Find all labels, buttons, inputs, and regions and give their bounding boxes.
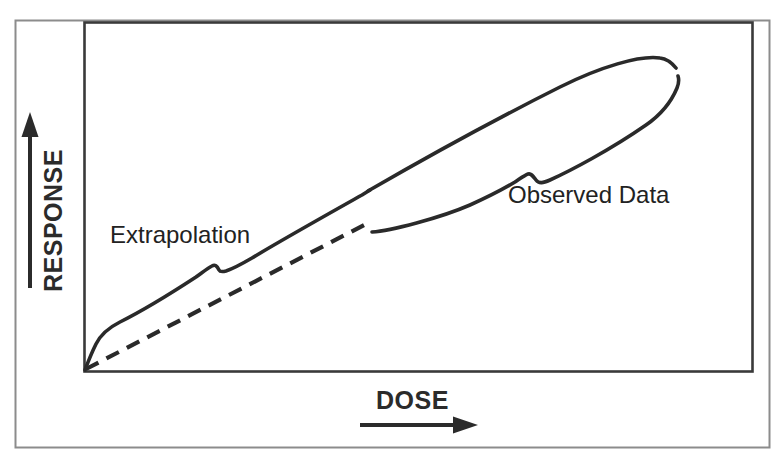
figure-canvas: RESPONSE Extrapolation Observed Data DOS… — [0, 0, 784, 459]
dose-response-figure: RESPONSE Extrapolation Observed Data DOS… — [0, 0, 784, 459]
y-axis-label: RESPONSE — [39, 149, 67, 292]
observed-data-upper-curve — [368, 58, 676, 191]
dose-axis-arrow-icon — [360, 417, 478, 434]
extrapolation-curve — [85, 190, 370, 370]
observed-data-annotation: Observed Data — [508, 181, 670, 208]
observed-data-lower-curve — [372, 76, 679, 232]
extrapolation-annotation: Extrapolation — [110, 221, 250, 248]
response-axis-arrow-icon — [22, 112, 39, 288]
x-axis-label: DOSE — [376, 386, 449, 414]
